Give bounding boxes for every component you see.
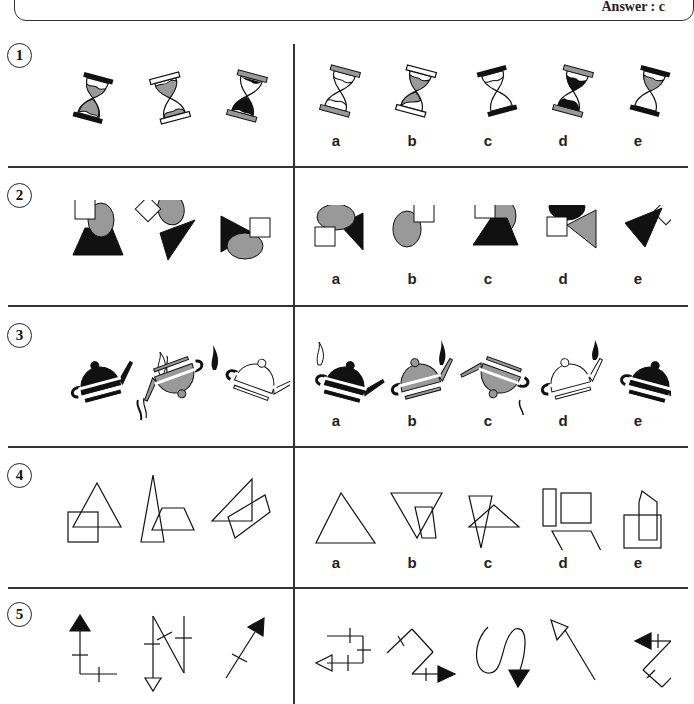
question-number: 4 xyxy=(7,463,32,488)
option-label-a[interactable]: a xyxy=(326,132,346,149)
question-1-options xyxy=(305,58,671,128)
answer-box xyxy=(14,0,694,21)
question-number: 5 xyxy=(7,602,32,627)
option-label-a[interactable]: a xyxy=(326,554,346,571)
question-2-sequence xyxy=(60,200,290,280)
row-divider xyxy=(8,166,688,168)
row-divider xyxy=(8,305,688,307)
option-label-e[interactable]: e xyxy=(628,132,648,149)
option-label-d[interactable]: d xyxy=(553,270,573,287)
question-2-options xyxy=(305,205,671,280)
option-label-b[interactable]: b xyxy=(402,270,422,287)
question-4-sequence xyxy=(60,470,290,550)
option-a-figure xyxy=(320,65,361,117)
option-label-b[interactable]: b xyxy=(402,554,422,571)
option-label-d[interactable]: d xyxy=(553,554,573,571)
option-label-e[interactable]: e xyxy=(628,270,648,287)
option-label-d[interactable]: d xyxy=(553,132,573,149)
question-number: 3 xyxy=(7,323,32,348)
row-divider xyxy=(8,587,688,589)
option-label-b[interactable]: b xyxy=(402,132,422,149)
option-label-b[interactable]: b xyxy=(402,412,422,429)
row-divider xyxy=(8,446,688,448)
option-label-e[interactable]: e xyxy=(628,554,648,571)
answer-label: Answer : c xyxy=(601,0,665,15)
option-label-c[interactable]: c xyxy=(478,270,498,287)
option-label-a[interactable]: a xyxy=(326,412,346,429)
question-5-options xyxy=(305,615,671,693)
question-1-sequence xyxy=(55,60,295,135)
column-divider xyxy=(293,44,295,704)
question-number: 1 xyxy=(7,43,32,68)
question-3-sequence xyxy=(55,330,290,420)
question-3-options xyxy=(305,330,671,415)
option-label-c[interactable]: c xyxy=(478,132,498,149)
question-number: 2 xyxy=(7,183,32,208)
question-5-sequence xyxy=(60,610,290,693)
option-label-c[interactable]: c xyxy=(478,412,498,429)
option-label-d[interactable]: d xyxy=(553,412,573,429)
question-4-options xyxy=(305,470,671,550)
option-label-a[interactable]: a xyxy=(326,270,346,287)
option-label-e[interactable]: e xyxy=(628,412,648,429)
option-label-c[interactable]: c xyxy=(478,554,498,571)
